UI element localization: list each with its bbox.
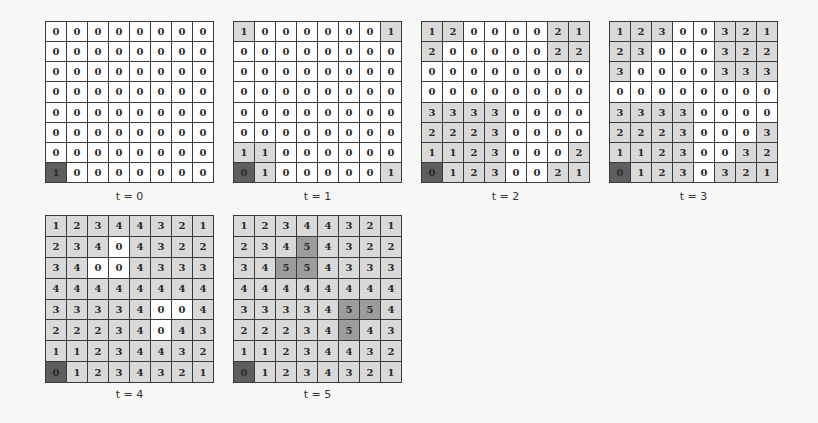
- grid-cell: 4: [381, 300, 401, 320]
- grid-cell: 0: [673, 62, 693, 81]
- grid-cell: 3: [67, 237, 87, 257]
- grid-cell: 0: [88, 62, 108, 81]
- time-step-label: t = 2: [421, 190, 590, 203]
- grid-cell: 0: [172, 42, 192, 61]
- distance-grid: 1000000100000000000000000000000000000000…: [233, 21, 402, 183]
- grid-cell: 3: [736, 62, 756, 81]
- grid-cell: 0: [67, 103, 87, 122]
- grid-cell: 3: [276, 300, 296, 320]
- grid-cell: 0: [88, 143, 108, 162]
- grid-cell: 2: [381, 237, 401, 257]
- grid-cell: 3: [422, 103, 442, 122]
- grid-cell: 2: [88, 362, 108, 382]
- grid-cell: 0: [318, 42, 338, 61]
- grid-cell: 0: [443, 62, 463, 81]
- grid-cell: 4: [109, 216, 129, 236]
- grid-cell: 3: [151, 237, 171, 257]
- grid-cell: 4: [339, 341, 359, 361]
- grid-cell: 2: [360, 362, 380, 382]
- grid-cell: 0: [443, 82, 463, 101]
- grid-cell: 0: [694, 123, 714, 142]
- grid-cell: 2: [757, 42, 777, 61]
- grid-cell: 2: [631, 123, 651, 142]
- grid-cell: 4: [130, 237, 150, 257]
- grid-cell: 0: [46, 103, 66, 122]
- grid-cell: 0: [88, 163, 108, 182]
- grid-cell: 3: [109, 341, 129, 361]
- grid-cell: 0: [694, 42, 714, 61]
- grid-cell: 0: [318, 82, 338, 101]
- grid-cell: 2: [736, 22, 756, 41]
- grid-cell: 2: [234, 237, 254, 257]
- grid-cell: 0: [506, 62, 526, 81]
- grid-cell: 1: [422, 22, 442, 41]
- grid-cell: 0: [694, 82, 714, 101]
- grid-cell: 0: [130, 22, 150, 41]
- grid-cell: 3: [151, 258, 171, 278]
- grid-cell: 3: [297, 300, 317, 320]
- grid-cell: 3: [610, 103, 630, 122]
- grid-cell: 0: [193, 123, 213, 142]
- grid-cell: 2: [443, 22, 463, 41]
- grid-cell: 0: [193, 82, 213, 101]
- grid-cell: 4: [151, 341, 171, 361]
- grid-cell: 5: [339, 320, 359, 340]
- grid-cell: 1: [422, 143, 442, 162]
- grid-cell: 4: [172, 279, 192, 299]
- grid-cell: 0: [569, 62, 589, 81]
- grid-cell: 0: [464, 62, 484, 81]
- grid-cell: 4: [318, 320, 338, 340]
- grid-cell: 0: [673, 42, 693, 61]
- grid-cell: 2: [88, 320, 108, 340]
- grid-cell: 1: [193, 216, 213, 236]
- grid-cell: 3: [172, 341, 192, 361]
- grid-cell: 1: [234, 143, 254, 162]
- grid-cell: 3: [485, 103, 505, 122]
- grid-cell: 2: [276, 362, 296, 382]
- grid-cell: 0: [339, 22, 359, 41]
- grid-cell: 0: [443, 42, 463, 61]
- grid-cell: 0: [109, 103, 129, 122]
- grid-cell: 0: [46, 22, 66, 41]
- grid-cell: 4: [88, 237, 108, 257]
- grid-cell: 0: [46, 62, 66, 81]
- grid-cell: 0: [381, 103, 401, 122]
- grid-cell: 0: [172, 103, 192, 122]
- grid-cell: 0: [381, 123, 401, 142]
- grid-cell: 1: [255, 341, 275, 361]
- grid-cell: 0: [276, 82, 296, 101]
- grid-panel-t2: 1200002120000022000000000000000033330000…: [421, 21, 590, 183]
- grid-cell: 0: [757, 82, 777, 101]
- grid-cell: 1: [443, 143, 463, 162]
- grid-cell: 4: [318, 216, 338, 236]
- grid-cell: 4: [360, 320, 380, 340]
- grid-cell: 0: [151, 320, 171, 340]
- grid-cell: 0: [109, 82, 129, 101]
- grid-cell: 2: [548, 22, 568, 41]
- grid-cell: 0: [673, 82, 693, 101]
- grid-cell: 0: [46, 143, 66, 162]
- grid-cell: 0: [193, 103, 213, 122]
- grid-cell: 0: [548, 82, 568, 101]
- grid-cell: 0: [151, 103, 171, 122]
- grid-cell: 0: [610, 82, 630, 101]
- grid-cell: 0: [297, 123, 317, 142]
- grid-cell: 1: [381, 163, 401, 182]
- grid-cell: 0: [255, 62, 275, 81]
- grid-cell: 0: [130, 42, 150, 61]
- grid-cell: 1: [381, 216, 401, 236]
- grid-cell: 1: [443, 163, 463, 182]
- grid-cell: 4: [276, 279, 296, 299]
- grid-cell: 4: [130, 300, 150, 320]
- grid-cell: 2: [255, 320, 275, 340]
- grid-cell: 2: [172, 362, 192, 382]
- grid-cell: 0: [527, 62, 547, 81]
- grid-cell: 0: [715, 143, 735, 162]
- grid-cell: 2: [193, 237, 213, 257]
- grid-cell: 3: [151, 216, 171, 236]
- grid-cell: 0: [339, 42, 359, 61]
- grid-cell: 0: [715, 82, 735, 101]
- grid-cell: 0: [151, 300, 171, 320]
- grid-cell: 1: [255, 362, 275, 382]
- grid-cell: 2: [443, 123, 463, 142]
